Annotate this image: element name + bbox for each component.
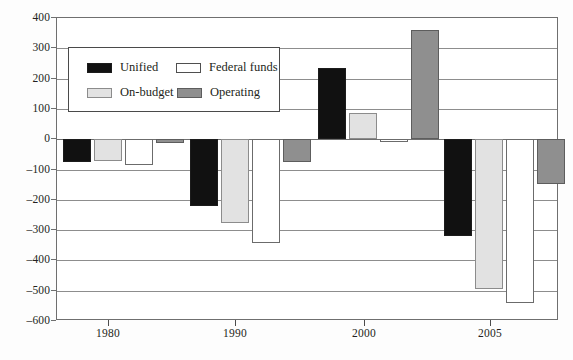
bar-2005-on-budget [475, 139, 503, 289]
onbudget-swatch-icon [87, 88, 112, 98]
bar-chart: 4003002001000–100–200–300–400–500–600 19… [0, 0, 573, 360]
legend-entry-unified: Unified [69, 60, 170, 75]
y-axis-tick-label: 100 [0, 102, 50, 114]
x-axis-tick-label: 2000 [352, 327, 376, 339]
legend-label-operating: Operating [210, 85, 260, 100]
legend-entry-on-budget: On-budget [69, 85, 171, 100]
x-axis-tick-label: 1980 [96, 327, 120, 339]
bar-1990-on-budget [221, 139, 249, 223]
legend-entry-federal-funds: Federal funds [170, 60, 279, 75]
bar-2000-unified [318, 68, 346, 140]
y-axis-tick-label: –300 [0, 223, 50, 235]
bar-2000-federal-funds [380, 139, 408, 142]
bar-1980-operating [156, 139, 184, 142]
gridline [57, 291, 557, 292]
x-axis-tick-mark [108, 320, 109, 326]
y-axis-tick-label: 300 [0, 41, 50, 53]
bar-1980-on-budget [94, 139, 122, 161]
legend-label-federal-funds: Federal funds [209, 60, 277, 75]
y-axis-tick-label: 0 [0, 132, 50, 144]
y-axis-tick-label: –500 [0, 284, 50, 296]
legend-entry-operating: Operating [171, 85, 279, 100]
bar-1980-unified [63, 139, 91, 161]
x-axis-tick-label: 1990 [223, 327, 247, 339]
unified-swatch-icon [87, 63, 112, 73]
bar-2005-unified [444, 139, 472, 235]
y-axis-tick-label: 400 [0, 11, 50, 23]
bar-1980-federal-funds [125, 139, 153, 165]
x-axis-tick-mark [490, 320, 491, 326]
bar-2000-on-budget [349, 113, 377, 139]
operating-swatch-icon [177, 88, 202, 98]
x-axis-tick-mark [235, 320, 236, 326]
bar-2000-operating [411, 30, 439, 139]
x-axis-tick-mark [364, 320, 365, 326]
y-axis-tick-label: –400 [0, 253, 50, 265]
legend-row: On-budget Operating [69, 80, 279, 105]
chart-legend: Unified Federal funds On-budget Operatin… [68, 47, 280, 112]
bar-1990-unified [190, 139, 218, 206]
legend-row: Unified Federal funds [69, 55, 279, 80]
y-axis-tick-label: –600 [0, 314, 50, 326]
federal-funds-swatch-icon [176, 63, 201, 73]
y-axis-tick-mark [51, 320, 56, 321]
y-axis-tick-label: –100 [0, 163, 50, 175]
bar-1990-operating [283, 139, 311, 162]
legend-label-unified: Unified [120, 60, 158, 75]
bar-1990-federal-funds [252, 139, 280, 243]
x-axis-tick-label: 2005 [478, 327, 502, 339]
legend-label-on-budget: On-budget [120, 85, 173, 100]
bar-2005-operating [537, 139, 565, 184]
y-axis-tick-label: –200 [0, 193, 50, 205]
bar-2005-federal-funds [506, 139, 534, 303]
y-axis-tick-label: 200 [0, 72, 50, 84]
